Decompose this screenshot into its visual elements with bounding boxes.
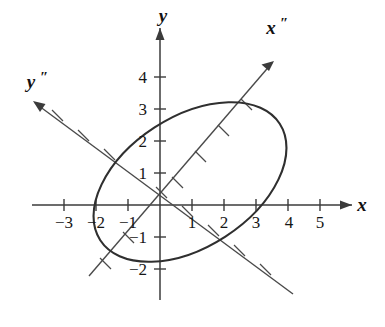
y-double-prime-axis-line xyxy=(35,103,293,294)
x-double-prime-axis xyxy=(89,61,274,276)
y-ticklabel-2: 2 xyxy=(139,132,148,151)
x-axis-arrowhead xyxy=(340,201,352,210)
y-axis-arrowhead xyxy=(156,28,165,40)
x-axis-label: x xyxy=(356,194,367,215)
x-axis xyxy=(32,199,352,211)
y-ticklabel-1: 1 xyxy=(139,164,148,183)
x-double-prime-marks: ″ xyxy=(280,15,288,31)
y-double-prime-label: y ″ xyxy=(25,69,49,92)
x-double-prime-axis-line xyxy=(89,63,272,276)
y-double-prime-axis xyxy=(33,101,293,294)
y-ticklabel--2: −2 xyxy=(129,260,147,279)
y-double-prime-marks: ″ xyxy=(40,69,48,85)
x-ticklabel-4: 4 xyxy=(285,213,294,232)
y-ticklabel--1: −1 xyxy=(129,228,147,247)
x-ticklabel-1: 1 xyxy=(188,213,197,232)
x-ticklabel-3: 3 xyxy=(252,213,261,232)
y-double-prime-arrowhead xyxy=(33,101,46,112)
x-double-prime-arrowhead xyxy=(262,61,275,71)
y-ticklabel-3: 3 xyxy=(139,100,148,119)
x-ticklabel--3: −3 xyxy=(55,213,73,232)
x-double-prime-label-text: x xyxy=(265,17,276,38)
x2-tick--2 xyxy=(100,258,111,269)
x-double-prime-label: x ″ xyxy=(265,15,288,38)
x2-tick-3 xyxy=(218,125,229,136)
y-double-prime-label-text: y xyxy=(25,71,36,92)
y-axis xyxy=(154,28,166,300)
x-ticklabel--2: −2 xyxy=(87,213,105,232)
x2-tick-1 xyxy=(172,177,183,188)
plot-canvas: −3 −2 −1 1 2 3 4 5 4 3 2 1 −1 −2 x y x ″… xyxy=(0,0,385,327)
math-figure-rotated-conic: −3 −2 −1 1 2 3 4 5 4 3 2 1 −1 −2 x y x ″… xyxy=(0,0,385,327)
x-ticklabel-5: 5 xyxy=(316,213,325,232)
x-ticklabel-2: 2 xyxy=(220,213,229,232)
y-axis-label: y xyxy=(157,5,168,26)
x2-tick-2 xyxy=(195,151,206,162)
y-ticklabel-4: 4 xyxy=(139,68,148,87)
